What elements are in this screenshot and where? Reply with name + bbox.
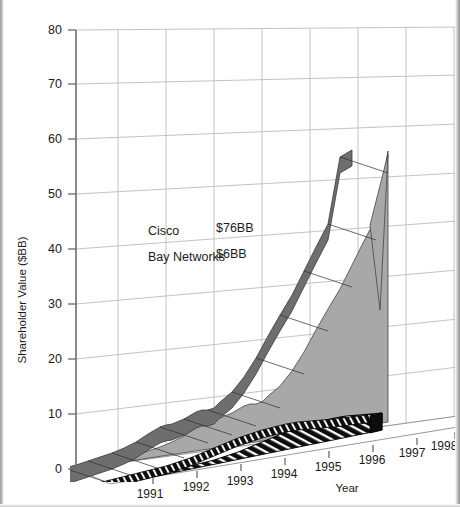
y-tick-label-40: 40 [48, 242, 62, 256]
y-tick-label-60: 60 [48, 132, 62, 146]
x-tick-label-1997: 1997 [399, 446, 426, 460]
y-tick-label-0: 0 [55, 462, 62, 476]
x-tick-label-1993: 1993 [227, 474, 254, 488]
y-tick-label-10: 10 [48, 407, 62, 421]
bay-end-cap [370, 413, 382, 433]
chart-figure: 80 70 60 50 40 30 20 10 0 Shareholder Va… [0, 0, 460, 507]
y-axis-title: Shareholder Value ($BB) [16, 236, 28, 363]
legend-name-bay-networks: Bay Networks [148, 250, 225, 264]
y-tick-label-20: 20 [48, 352, 62, 366]
x-tick-label-1996: 1996 [359, 453, 386, 467]
x-axis-title: Year [335, 482, 358, 494]
scan-edge-right [455, 0, 460, 507]
x-tick-label-1998: 1998 [431, 439, 458, 453]
y-tick-label-50: 50 [48, 187, 62, 201]
legend-name-cisco: Cisco [148, 224, 179, 238]
y-tick-label-80: 80 [48, 23, 62, 37]
scan-edge-left [0, 0, 4, 507]
x-tick-label-1992: 1992 [183, 480, 210, 494]
shareholder-value-3d-area-chart: 80 70 60 50 40 30 20 10 0 Shareholder Va… [0, 0, 460, 507]
y-tick-label-70: 70 [48, 77, 62, 91]
legend-value-cisco: $76BB [216, 221, 254, 235]
x-tick-label-1995: 1995 [315, 460, 342, 474]
x-tick-label-1994: 1994 [271, 467, 298, 481]
x-tick-label-1991: 1991 [137, 487, 164, 501]
legend-value-bay-networks: $6BB [216, 247, 247, 261]
y-tick-label-30: 30 [48, 297, 62, 311]
